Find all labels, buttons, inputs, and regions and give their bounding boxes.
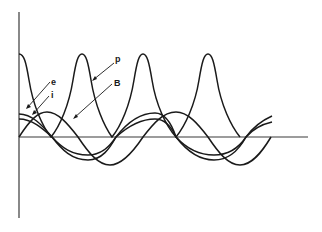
label-B-group: B xyxy=(73,78,121,119)
arrowhead-p xyxy=(92,76,97,81)
label-i-group: i xyxy=(32,90,54,115)
waveform-diagram: p B e i xyxy=(0,0,322,232)
label-B: B xyxy=(114,78,121,88)
label-p: p xyxy=(115,54,121,64)
label-p-group: p xyxy=(92,54,121,81)
label-i: i xyxy=(51,90,54,100)
label-e: e xyxy=(51,77,56,87)
leader-line-p xyxy=(93,63,114,80)
